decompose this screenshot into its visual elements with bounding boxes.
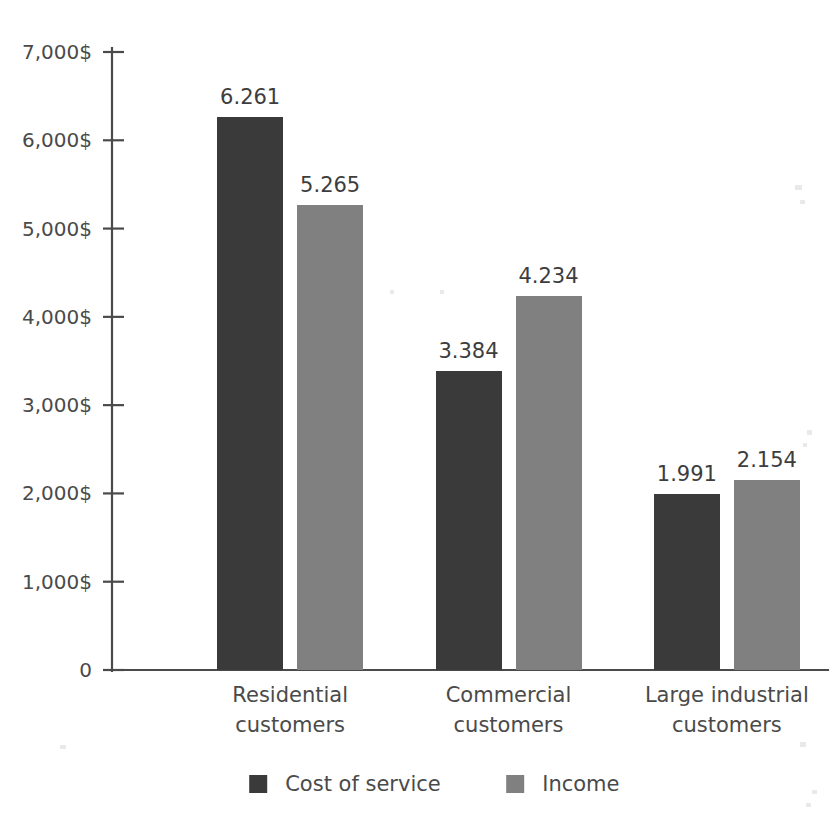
- bar-value-label: 4.234: [518, 264, 578, 288]
- bar-chart: 01,000$2,000$3,000$4,000$5,000$6,000$7,0…: [0, 0, 839, 819]
- bar-income: [734, 480, 800, 670]
- category-label: customers: [454, 713, 564, 737]
- bar-value-label: 2.154: [737, 448, 797, 472]
- y-tick-label: 5,000$: [22, 217, 92, 241]
- category-label: Residential: [232, 683, 348, 707]
- chart-legend: Cost of serviceIncome: [249, 772, 619, 796]
- legend-label: Income: [542, 772, 619, 796]
- bar-value-label: 6.261: [220, 85, 280, 109]
- y-tick-label: 7,000$: [22, 40, 92, 64]
- bars-layer: [217, 117, 800, 670]
- category-label: customers: [672, 713, 782, 737]
- category-label: customers: [235, 713, 345, 737]
- bar-cost-of-service: [654, 494, 720, 670]
- y-tick-label: 2,000$: [22, 481, 92, 505]
- bar-value-label: 3.384: [438, 339, 498, 363]
- bar-income: [297, 205, 363, 670]
- category-label: Large industrial: [645, 683, 809, 707]
- bar-income: [516, 296, 582, 670]
- y-tick-label: 0: [79, 658, 92, 682]
- legend-label: Cost of service: [285, 772, 441, 796]
- x-axis-category-labels: ResidentialcustomersCommercialcustomersL…: [232, 683, 808, 737]
- y-tick-label: 6,000$: [22, 128, 92, 152]
- y-tick-label: 4,000$: [22, 305, 92, 329]
- y-tick-label: 1,000$: [22, 570, 92, 594]
- chart-canvas: 01,000$2,000$3,000$4,000$5,000$6,000$7,0…: [0, 0, 839, 819]
- y-axis: 01,000$2,000$3,000$4,000$5,000$6,000$7,0…: [22, 40, 124, 682]
- bar-value-label: 1.991: [657, 462, 717, 486]
- legend-swatch: [249, 775, 267, 793]
- bar-cost-of-service: [436, 371, 502, 670]
- y-tick-label: 3,000$: [22, 393, 92, 417]
- bar-value-label: 5.265: [300, 173, 360, 197]
- category-label: Commercial: [446, 683, 572, 707]
- bar-cost-of-service: [217, 117, 283, 670]
- legend-swatch: [506, 775, 524, 793]
